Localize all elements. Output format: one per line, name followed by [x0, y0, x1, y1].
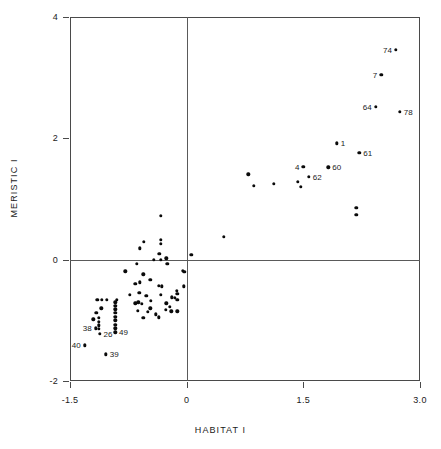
y-axis-tick [63, 381, 69, 382]
data-point-label: 4 [295, 162, 299, 171]
y-axis-tick-label: -2 [22, 376, 58, 386]
data-point-label: 26 [104, 329, 113, 338]
x-axis-tick-label: 1.5 [297, 395, 310, 405]
data-point-label: 74 [383, 45, 392, 54]
data-point-label: 62 [313, 172, 322, 181]
data-point-label: 1 [341, 139, 345, 148]
data-point-label: 40 [72, 341, 81, 350]
y-axis-tick-label: 4 [22, 12, 58, 22]
scatter-plot-figure: -2024-1.501.53.0 74764781614606238264940… [0, 0, 441, 449]
reference-line-vertical [187, 17, 188, 381]
x-axis-tick [303, 382, 304, 388]
x-axis-tick [187, 382, 188, 388]
x-axis-tick-label: -1.5 [62, 395, 79, 405]
reference-line-horizontal [70, 260, 420, 261]
data-point-label: 64 [363, 102, 372, 111]
y-axis-tick [63, 260, 69, 261]
y-axis-tick [63, 17, 69, 18]
x-axis-tick [70, 382, 71, 388]
plot-area [70, 17, 420, 381]
x-axis-tick [420, 382, 421, 388]
data-point-label: 38 [83, 324, 92, 333]
data-point-label: 49 [119, 328, 128, 337]
x-axis-tick-label: 0 [184, 395, 189, 405]
y-axis-title: MERISTIC I [9, 128, 19, 248]
y-axis-tick-label: 0 [22, 255, 58, 265]
data-point-label: 60 [332, 163, 341, 172]
x-axis-tick-label: 3.0 [413, 395, 426, 405]
data-point-label: 78 [404, 107, 413, 116]
data-point-label: 61 [363, 148, 372, 157]
x-axis-title: HABITAT I [0, 425, 441, 435]
data-point-label: 39 [110, 350, 119, 359]
y-axis-tick-label: 2 [22, 133, 58, 143]
y-axis-tick [63, 138, 69, 139]
data-point-label: 7 [373, 70, 377, 79]
